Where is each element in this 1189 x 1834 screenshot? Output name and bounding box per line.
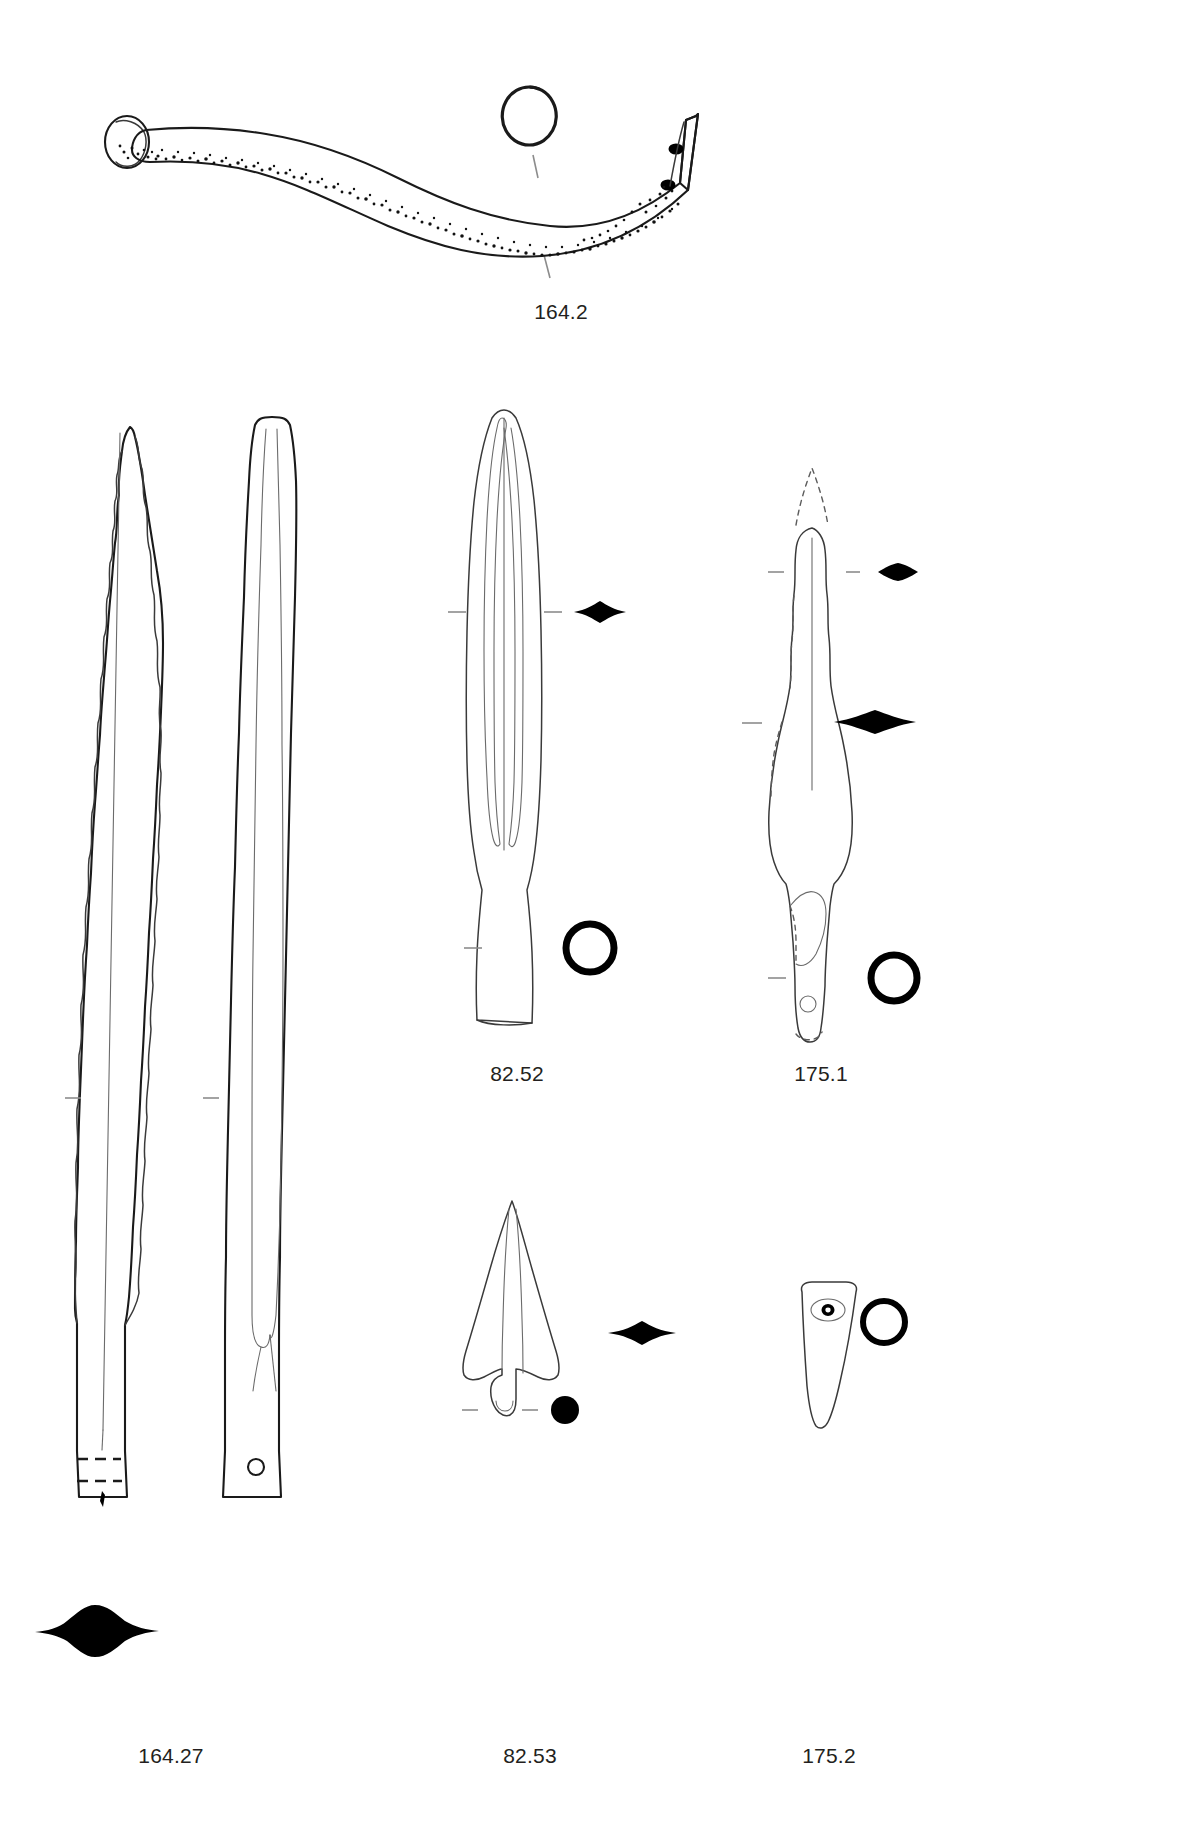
section-circular-164-2 xyxy=(502,87,556,145)
section-solid-circle xyxy=(551,1396,579,1424)
caption-82-53: 82.53 xyxy=(470,1744,590,1768)
pin-body-outline xyxy=(132,114,698,257)
section-upper-82-52 xyxy=(440,598,640,638)
section-socket-175-1 xyxy=(750,950,950,1020)
socket-nick xyxy=(100,1491,105,1507)
caption-164-2: 164.2 xyxy=(501,300,621,324)
section-ring-175-2 xyxy=(863,1301,905,1343)
section-lower-82-53 xyxy=(450,1392,630,1432)
section-upper-175-1 xyxy=(750,558,950,594)
section-lenticular-82-53 xyxy=(608,1321,676,1345)
section-upper-82-53 xyxy=(580,1315,720,1351)
section-175-2 xyxy=(850,1290,950,1360)
stipple-shading xyxy=(119,145,680,257)
view-face-164-27 xyxy=(75,427,163,1507)
section-ring-socket xyxy=(566,924,614,972)
section-tick-lower xyxy=(544,255,550,278)
caption-164-27: 164.27 xyxy=(111,1744,231,1768)
figure-164-2-drawing xyxy=(80,60,740,300)
section-lenticular-164-27 xyxy=(35,1605,159,1657)
illustration-plate: 164.2 xyxy=(0,0,1189,1834)
section-ring-socket-175-1 xyxy=(871,955,917,1001)
caption-175-2: 175.2 xyxy=(769,1744,889,1768)
view-edge-164-27 xyxy=(223,417,296,1497)
rivet-hole-lower xyxy=(661,180,676,191)
section-tick-upper xyxy=(533,155,538,178)
section-lenticular-large xyxy=(834,710,916,734)
section-ticks-164-27 xyxy=(55,1090,345,1106)
socket-eyelet-175-2 xyxy=(811,1299,845,1321)
reconstructed-tip xyxy=(796,468,828,525)
caption-175-1: 175.1 xyxy=(761,1062,881,1086)
section-lenticular xyxy=(574,601,626,623)
section-lower-82-52 xyxy=(440,920,640,990)
section-lenticular-small xyxy=(878,563,918,581)
rivet-hole-edge-view xyxy=(248,1459,264,1475)
caption-82-52: 82.52 xyxy=(457,1062,577,1086)
figure-164-27-drawing xyxy=(55,415,345,1515)
section-middle-175-1 xyxy=(730,705,960,745)
